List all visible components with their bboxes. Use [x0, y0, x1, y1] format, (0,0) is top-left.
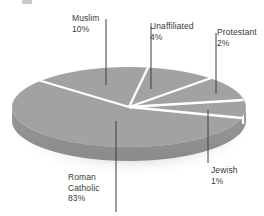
- slice-label-muslim-pct: 10%: [72, 24, 100, 35]
- slice-label-protestant-name: Protestant: [217, 27, 257, 37]
- slice-label-unaffiliated-pct: 4%: [150, 32, 194, 43]
- slice-label-unaffiliated-name: Unaffiliated: [150, 21, 194, 31]
- slice-label-protestant-pct: 2%: [217, 38, 257, 49]
- slice-label-unaffiliated: Unaffiliated 4%: [150, 21, 194, 42]
- slice-label-roman-catholic-pct: 83%: [68, 193, 100, 204]
- slice-label-jewish: Jewish 1%: [211, 165, 238, 186]
- chart-canvas: Muslim 10% Unaffiliated 4% Protestant 2%…: [0, 0, 264, 216]
- slice-label-protestant: Protestant 2%: [217, 27, 257, 48]
- slice-label-jewish-name: Jewish: [211, 165, 238, 175]
- slice-label-roman-catholic: Roman Catholic 83%: [68, 172, 100, 204]
- slice-label-muslim: Muslim 10%: [72, 13, 100, 34]
- slice-label-roman-catholic-name2: Catholic: [68, 183, 100, 194]
- slice-label-muslim-name: Muslim: [72, 13, 100, 23]
- slice-label-jewish-pct: 1%: [211, 176, 238, 187]
- slice-label-roman-catholic-name: Roman: [68, 172, 96, 182]
